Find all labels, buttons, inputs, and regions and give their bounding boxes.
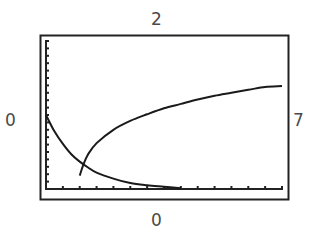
plot-area bbox=[0, 0, 311, 242]
axis-ticks bbox=[46, 41, 282, 189]
decaying-curve bbox=[46, 115, 181, 188]
series-group bbox=[46, 86, 282, 188]
rising-curve bbox=[80, 86, 282, 176]
outer-frame bbox=[41, 36, 289, 200]
